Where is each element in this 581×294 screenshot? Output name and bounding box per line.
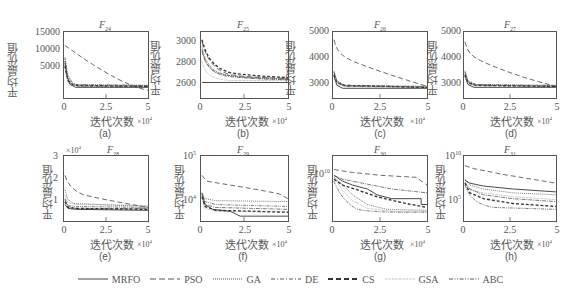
plot-area-e: [63, 155, 149, 222]
y-axis-label: 平均最优值: [40, 160, 56, 220]
x-axis-label: 迭代次数: [225, 113, 269, 129]
xtick: 2.5: [235, 101, 255, 112]
x-multiplier: ×104: [272, 116, 287, 126]
xtick: 5: [138, 224, 158, 235]
ytick: 10000: [20, 43, 60, 54]
subfigure-label-c: (c): [365, 128, 395, 139]
legend: MRFO PSO GA DE CS GSA ABC: [0, 270, 581, 288]
ytick: 1010: [421, 150, 461, 161]
ytick: 3000: [289, 77, 329, 88]
xtick: 0: [453, 101, 473, 112]
xtick: 5: [279, 101, 299, 112]
y-axis-label: 平均最优值: [433, 160, 449, 220]
x-axis-label: 迭代次数: [225, 236, 269, 252]
xtick: 2.5: [370, 224, 390, 235]
x-multiplier: ×104: [537, 239, 552, 249]
x-multiplier: ×104: [410, 239, 425, 249]
xtick: 2.5: [96, 101, 116, 112]
xtick: 2.5: [235, 224, 255, 235]
xtick: 0: [322, 101, 342, 112]
xtick: 5: [547, 101, 567, 112]
legend-label: GSA: [419, 274, 439, 285]
legend-label: DE: [305, 274, 318, 285]
plot-area-d: [463, 31, 557, 99]
line-series: [333, 156, 427, 221]
x-axis-label: 迭代次数: [90, 236, 134, 252]
dash-dot-dot-line-icon: [449, 276, 479, 282]
ytick: 4000: [289, 51, 329, 62]
xtick: 2.5: [96, 224, 116, 235]
ytick: 2600: [156, 77, 196, 88]
legend-item-de: DE: [271, 274, 318, 285]
ytick: 3: [18, 150, 58, 161]
legend-label: MRFO: [112, 274, 140, 285]
dashed-line-icon: [150, 276, 180, 282]
y-axis-label: 平均最优值: [5, 38, 21, 98]
xtick: 2.5: [500, 101, 520, 112]
line-series: [64, 156, 148, 221]
line-series: [201, 32, 288, 98]
ytick: 15000: [20, 26, 60, 37]
bold-dashed-line-icon: [328, 276, 358, 282]
ytick: 1: [18, 194, 58, 205]
ytick: 105: [156, 150, 196, 161]
legend-item-pso: PSO: [150, 274, 202, 285]
line-series: [64, 32, 148, 98]
xtick: 5: [418, 224, 438, 235]
plot-area-b: [200, 31, 289, 99]
xtick: 0: [190, 224, 210, 235]
plot-area-h: [463, 155, 557, 222]
subfigure-label-g: (g): [365, 251, 395, 262]
xtick: 0: [453, 224, 473, 235]
ytick: 104: [156, 194, 196, 205]
line-series: [464, 156, 556, 221]
legend-item-mrfo: MRFO: [78, 274, 140, 285]
xtick: 5: [547, 224, 567, 235]
x-multiplier: ×104: [537, 116, 552, 126]
fine-dotted-line-icon: [385, 276, 415, 282]
legend-item-gsa: GSA: [385, 274, 439, 285]
x-axis-label: 迭代次数: [490, 236, 534, 252]
ytick: 3000: [421, 77, 461, 88]
x-multiplier: ×104: [137, 116, 152, 126]
xtick: 0: [54, 101, 74, 112]
legend-label: GA: [247, 274, 261, 285]
xtick: 5: [279, 224, 299, 235]
x-multiplier: ×104: [137, 239, 152, 249]
x-axis-label: 迭代次数: [90, 113, 134, 129]
xtick: 2.5: [500, 224, 520, 235]
x-axis-label: 迭代次数: [360, 236, 404, 252]
subfigure-label-f: (f): [228, 251, 258, 262]
plot-area-a: [63, 31, 149, 99]
ytick: 5000: [421, 25, 461, 36]
line-series: [333, 32, 427, 98]
x-axis-label: 迭代次数: [360, 113, 404, 129]
legend-label: ABC: [483, 274, 504, 285]
subfigure-label-h: (h): [496, 251, 526, 262]
plot-area-c: [332, 31, 428, 99]
solid-line-icon: [78, 276, 108, 282]
ytick: 5000: [20, 60, 60, 71]
xtick: 0: [54, 224, 74, 235]
y-axis-label: 平均最优值: [172, 160, 188, 220]
line-series: [464, 32, 556, 98]
ytick: 5000: [289, 25, 329, 36]
ytick: 2800: [156, 56, 196, 67]
line-series: [201, 156, 288, 221]
legend-label: CS: [362, 274, 374, 285]
plot-area-g: [332, 155, 428, 222]
subfigure-label-d: (d): [496, 128, 526, 139]
x-multiplier: ×104: [410, 116, 425, 126]
ytick: 2: [18, 172, 58, 183]
plot-area-f: [200, 155, 289, 222]
legend-label: PSO: [184, 274, 202, 285]
legend-item-ga: GA: [213, 274, 261, 285]
x-multiplier: ×104: [272, 239, 287, 249]
ytick: 3000: [156, 35, 196, 46]
dashdot-line-icon: [271, 276, 301, 282]
legend-item-cs: CS: [328, 274, 374, 285]
y-multiplier: ×104: [66, 145, 81, 155]
xtick: 5: [418, 101, 438, 112]
subfigure-label-b: (b): [228, 128, 258, 139]
legend-item-abc: ABC: [449, 274, 504, 285]
